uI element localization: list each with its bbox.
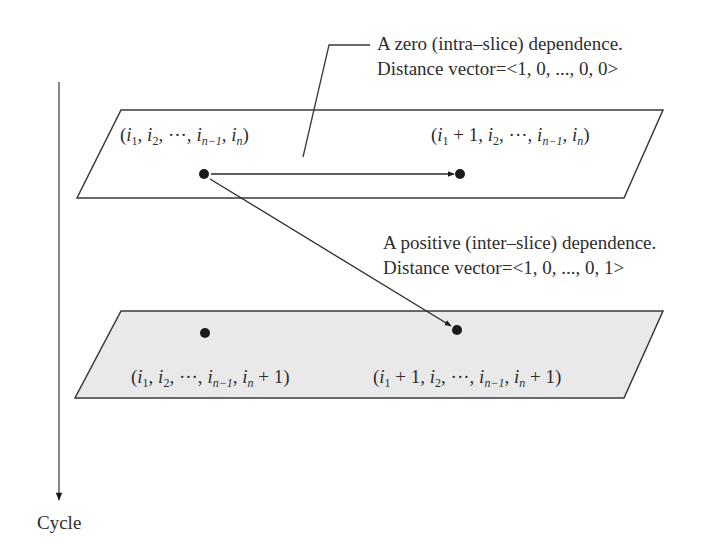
cycle-axis-label: Cycle <box>37 510 81 535</box>
coord-label-top-right: (i1 + 1, i2, ···, in−1, in) <box>431 124 590 146</box>
coord-label-top-left: (i1, i2, ···, in−1, in) <box>120 124 249 146</box>
coord-label-bottom-right: (i1 + 1, i2, ···, in−1, in + 1) <box>373 366 561 388</box>
zero-dependence-annotation: A zero (intra–slice) dependence. Distanc… <box>377 31 623 81</box>
point-bottom-left-dot <box>200 328 210 338</box>
positive-dependence-annotation: A positive (inter–slice) dependence. Dis… <box>383 230 656 280</box>
point-bottom-right-dot <box>452 325 462 335</box>
coord-label-bottom-left: (i1, i2, ···, in−1, in + 1) <box>131 366 290 388</box>
point-top-left-dot <box>199 169 209 179</box>
positive-dependence-title: A positive (inter–slice) dependence. <box>383 230 656 255</box>
positive-distance-vector: Distance vector=<1, 0, ..., 0, 1> <box>383 255 656 280</box>
zero-dependence-title: A zero (intra–slice) dependence. <box>377 31 623 56</box>
point-top-right-dot <box>455 169 465 179</box>
zero-distance-vector: Distance vector=<1, 0, ..., 0, 0> <box>377 56 623 81</box>
